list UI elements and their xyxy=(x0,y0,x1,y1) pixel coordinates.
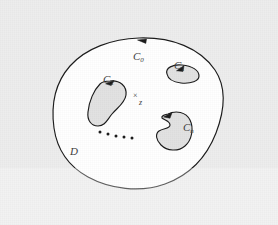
ellipsis-dot xyxy=(115,135,118,138)
complex-domain-diagram xyxy=(0,0,278,225)
point-marker-x: × xyxy=(133,92,138,100)
ellipsis-dot xyxy=(99,131,102,134)
figure-canvas: C0 C1 C2 Cn D × z xyxy=(0,0,278,225)
label-C1: C1 xyxy=(174,56,185,73)
label-Cn: Cn xyxy=(183,118,194,135)
label-domain-D: D xyxy=(70,146,78,157)
label-C2: C2 xyxy=(103,70,114,87)
ellipsis-dot xyxy=(131,137,134,140)
label-point-z: z xyxy=(139,92,142,108)
ellipsis-dot xyxy=(107,133,110,136)
label-C0: C0 xyxy=(133,47,144,64)
ellipsis-dot xyxy=(123,136,126,139)
